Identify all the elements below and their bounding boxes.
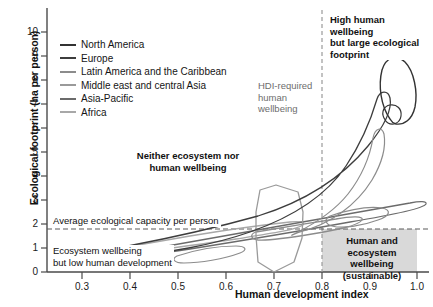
annotation-line: Ecosystem wellbeing — [53, 245, 172, 257]
annotation-line: wellbeing — [326, 258, 418, 270]
annotation-high-human-wellbeing: High human wellbeing but large ecologica… — [330, 14, 430, 60]
legend-label: Europe — [81, 52, 113, 66]
annotation-line: HDI-required — [258, 80, 320, 92]
annotation-line: footprint — [330, 49, 430, 61]
annotation-line: Human and ecosystem — [326, 235, 418, 258]
annotation-line: wellbeing — [258, 103, 320, 115]
x-axis-title: Human development index — [235, 288, 369, 300]
chart-root: 10 9 8 7 6 5 4 3 2 1 0 0.3 0.4 0.5 0.6 0… — [0, 0, 433, 307]
legend-swatch-icon — [60, 98, 76, 100]
legend-label: North America — [81, 38, 144, 52]
annotation-line: but low human development — [53, 257, 172, 269]
legend-item-north-america[interactable]: North America — [60, 38, 227, 52]
annotation-line: human — [258, 92, 320, 104]
y-tick-label: 1 — [18, 242, 38, 253]
legend-swatch-icon — [60, 44, 76, 46]
legend-item-middle-east-central-asia[interactable]: Middle east and central Asia — [60, 79, 227, 93]
legend-label: Asia-Pacific — [81, 92, 133, 106]
annotation-hdi-required: HDI-required human wellbeing — [258, 80, 320, 115]
legend-item-europe[interactable]: Europe — [60, 52, 227, 66]
x-tick-label: 0.4 — [115, 281, 145, 292]
series-hull-north-america — [380, 58, 416, 125]
legend-swatch-icon — [60, 111, 76, 113]
legend: North America Europe Latin America and t… — [60, 38, 227, 119]
legend-item-africa[interactable]: Africa — [60, 106, 227, 120]
annotation-line: Average ecological capacity per person — [53, 215, 219, 226]
annotation-line: Neither ecosystem nor — [124, 150, 252, 162]
legend-swatch-icon — [60, 71, 76, 73]
annotation-neither-ecosystem-nor-human-wellbeing: Neither ecosystem nor human wellbeing — [124, 150, 252, 173]
legend-label: Africa — [81, 106, 107, 120]
series-hull-europe-inner — [292, 129, 385, 235]
y-axis-title: Ecological footprint (ha per person) — [28, 28, 40, 208]
x-tick-label: 0.3 — [67, 281, 97, 292]
legend-label: Middle east and central Asia — [81, 79, 206, 93]
legend-swatch-icon — [60, 57, 76, 59]
x-tick-label: 0.5 — [163, 281, 193, 292]
annotation-line: human wellbeing — [124, 162, 252, 174]
legend-label: Latin America and the Caribbean — [81, 65, 227, 79]
annotation-line: High human wellbeing — [330, 14, 430, 37]
annotation-line: but large ecological — [330, 37, 430, 49]
x-tick-label: 1.0 — [402, 281, 432, 292]
annotation-ecosystem-wellbeing: Ecosystem wellbeing but low human develo… — [51, 245, 174, 268]
annotation-average-ecological-capacity: Average ecological capacity per person — [51, 215, 221, 227]
legend-swatch-icon — [60, 84, 76, 86]
annotation-sustainable: Human and ecosystem wellbeing (sustainab… — [326, 235, 418, 281]
annotation-line: (sustainable) — [326, 270, 418, 282]
y-tick-label: 0 — [18, 266, 38, 277]
y-tick-label: 2 — [18, 218, 38, 229]
y-axis-ticks — [41, 32, 47, 272]
legend-item-latin-america[interactable]: Latin America and the Caribbean — [60, 65, 227, 79]
legend-item-asia-pacific[interactable]: Asia-Pacific — [60, 92, 227, 106]
